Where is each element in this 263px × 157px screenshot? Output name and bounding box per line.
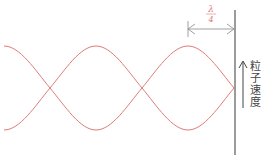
wave-curve-lower [4, 46, 234, 130]
velocity-label: 粒 子 速 度 [249, 61, 261, 109]
velocity-label-char: 度 [249, 97, 261, 109]
wave-curve-upper [4, 46, 234, 130]
dimension-label-numerator: λ [207, 4, 214, 14]
dimension-label-denominator: 4 [207, 15, 213, 24]
standing-wave-diagram: λ 4 [0, 0, 263, 157]
